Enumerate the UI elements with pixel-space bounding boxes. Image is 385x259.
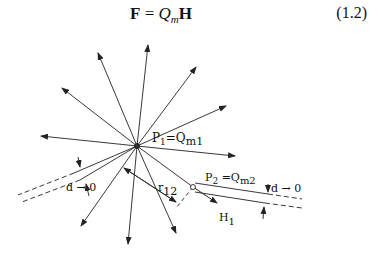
limit-right-label: d → 0: [271, 182, 301, 195]
field-line-to-p2: [137, 146, 193, 187]
pole-p1-dot: [135, 144, 140, 149]
field-line-arrow: [41, 136, 137, 146]
field-line-arrow: [128, 146, 137, 244]
magnetic-pole-diagram: P1=Qm1 P2 =Qm2 r12 H1 d → 0 d → 0: [0, 0, 385, 259]
field-line-arrow: [98, 53, 137, 146]
pole-p2-dot: [191, 185, 196, 190]
distance-label: r12: [158, 181, 177, 198]
limit-left-label: d → 0: [66, 181, 96, 194]
field-line-arrow: [62, 88, 137, 146]
pole1-label: P1=Qm1: [152, 131, 203, 148]
field-h1-label: H1: [219, 211, 235, 227]
field-line-arrow: [137, 45, 148, 146]
pole2-label: P2 =Qm2: [205, 171, 256, 186]
